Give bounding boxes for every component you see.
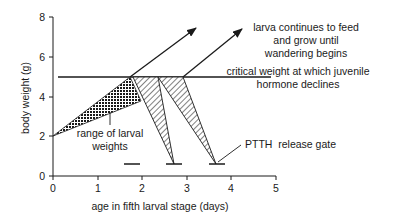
- growth-note-line-3: wandering begins: [264, 47, 347, 59]
- range-note-line-1: range of larval: [77, 127, 144, 139]
- x-tick-0: 0: [50, 182, 56, 194]
- ptth-diagram: 0 2 4 6 8 body weight (g) 0 1 2 3 4 5 ag…: [0, 0, 407, 223]
- growth-annotation: larva continues to feed and grow until w…: [253, 21, 359, 59]
- critical-note-line-1: critical weight at which juvenile: [227, 65, 370, 77]
- y-tick-0: 0: [39, 170, 45, 182]
- growth-arrow-1: [130, 28, 196, 77]
- range-annotation: range of larval weights: [77, 127, 144, 152]
- x-tick-1: 1: [95, 182, 101, 194]
- growth-note-line-2: and grow until: [273, 34, 338, 46]
- x-tick-2: 2: [139, 182, 145, 194]
- x-tick-3: 3: [184, 182, 190, 194]
- x-tick-5: 5: [273, 182, 279, 194]
- y-tick-4: 4: [39, 91, 45, 103]
- ptth-gate-wedge-2: [158, 77, 216, 164]
- y-tick-6: 6: [39, 51, 45, 63]
- x-tick-4: 4: [228, 182, 234, 194]
- x-axis: 0 1 2 3 4 5 age in fifth larval stage (d…: [50, 176, 279, 212]
- critical-note-line-2: hormone declines: [257, 78, 340, 90]
- ptth-release-gate-label: PTTH release gate: [245, 138, 336, 150]
- y-tick-2: 2: [39, 130, 45, 142]
- y-tick-8: 8: [39, 11, 45, 23]
- ptth-leader-line: [218, 145, 241, 162]
- x-axis-label: age in fifth larval stage (days): [91, 200, 228, 212]
- y-axis-label: body weight (g): [19, 62, 31, 134]
- y-axis: 0 2 4 6 8 body weight (g): [19, 11, 53, 182]
- growth-note-line-1: larva continues to feed: [253, 21, 359, 33]
- range-note-line-2: weights: [91, 140, 128, 152]
